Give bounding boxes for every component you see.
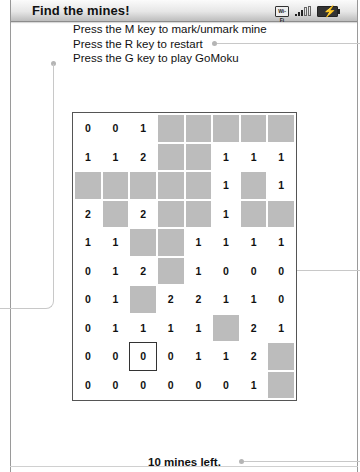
hidden-cell[interactable] — [157, 171, 185, 200]
hidden-cell[interactable] — [212, 314, 240, 343]
revealed-cell[interactable]: 1 — [240, 371, 268, 400]
revealed-cell[interactable]: 0 — [74, 314, 102, 343]
battery-charging-icon: ⚡ — [317, 6, 338, 17]
annotation-line-board — [0, 64, 54, 309]
hidden-cell[interactable] — [185, 200, 213, 229]
instruction-mark: Press the M key to mark/unmark mine — [73, 22, 267, 37]
revealed-cell[interactable]: 0 — [74, 114, 102, 143]
revealed-cell[interactable]: 0 — [157, 342, 185, 371]
selected-cell[interactable]: 0 — [129, 342, 157, 371]
instruction-gomoku: Press the G key to play GoMoku — [73, 51, 267, 66]
revealed-cell[interactable]: 1 — [129, 314, 157, 343]
hidden-cell[interactable] — [157, 257, 185, 286]
signal-bars-icon — [295, 6, 311, 16]
revealed-cell[interactable]: 0 — [102, 342, 130, 371]
hidden-cell[interactable] — [267, 114, 295, 143]
revealed-cell[interactable]: 0 — [102, 114, 130, 143]
revealed-cell[interactable]: 2 — [185, 285, 213, 314]
hidden-cell[interactable] — [74, 171, 102, 200]
revealed-cell[interactable]: 2 — [129, 143, 157, 172]
revealed-cell[interactable]: 1 — [240, 143, 268, 172]
revealed-cell[interactable]: 0 — [240, 257, 268, 286]
hidden-cell[interactable] — [240, 200, 268, 229]
hidden-cell[interactable] — [267, 342, 295, 371]
mines-left-counter: 10 mines left. — [148, 456, 221, 468]
revealed-cell[interactable]: 2 — [157, 285, 185, 314]
title-bar: Find the mines! Wi-Fi ⚡ — [11, 0, 357, 22]
hidden-cell[interactable] — [129, 285, 157, 314]
charging-bolt-icon: ⚡ — [323, 4, 337, 18]
revealed-cell[interactable]: 1 — [212, 200, 240, 229]
revealed-cell[interactable]: 1 — [240, 228, 268, 257]
hidden-cell[interactable] — [129, 171, 157, 200]
revealed-cell[interactable]: 0 — [212, 371, 240, 400]
revealed-cell[interactable]: 1 — [185, 257, 213, 286]
revealed-cell[interactable]: 0 — [74, 285, 102, 314]
revealed-cell[interactable]: 2 — [74, 200, 102, 229]
revealed-cell[interactable]: 1 — [185, 342, 213, 371]
minesweeper-board[interactable]: 0011121111122111111101210000122110011112… — [72, 112, 297, 401]
revealed-cell[interactable]: 0 — [74, 371, 102, 400]
revealed-cell[interactable]: 1 — [240, 285, 268, 314]
revealed-cell[interactable]: 1 — [267, 314, 295, 343]
annotation-line-restart — [217, 43, 360, 44]
revealed-cell[interactable]: 1 — [267, 143, 295, 172]
revealed-cell[interactable]: 1 — [212, 342, 240, 371]
revealed-cell[interactable]: 1 — [185, 314, 213, 343]
revealed-cell[interactable]: 1 — [212, 285, 240, 314]
hidden-cell[interactable] — [267, 200, 295, 229]
revealed-cell[interactable]: 0 — [74, 257, 102, 286]
revealed-cell[interactable]: 0 — [129, 371, 157, 400]
revealed-cell[interactable]: 1 — [212, 143, 240, 172]
wifi-icon: Wi-Fi — [275, 6, 289, 17]
hidden-cell[interactable] — [267, 371, 295, 400]
revealed-cell[interactable]: 1 — [102, 314, 130, 343]
revealed-cell[interactable]: 1 — [157, 314, 185, 343]
revealed-cell[interactable]: 0 — [102, 371, 130, 400]
revealed-cell[interactable]: 1 — [102, 285, 130, 314]
revealed-cell[interactable]: 1 — [212, 228, 240, 257]
hidden-cell[interactable] — [240, 171, 268, 200]
annotation-line-mines-left — [244, 461, 360, 462]
hidden-cell[interactable] — [157, 200, 185, 229]
revealed-cell[interactable]: 1 — [74, 143, 102, 172]
revealed-cell[interactable]: 1 — [74, 228, 102, 257]
revealed-cell[interactable]: 0 — [267, 285, 295, 314]
revealed-cell[interactable]: 1 — [267, 228, 295, 257]
revealed-cell[interactable]: 0 — [157, 371, 185, 400]
revealed-cell[interactable]: 2 — [240, 342, 268, 371]
hidden-cell[interactable] — [157, 114, 185, 143]
hidden-cell[interactable] — [185, 114, 213, 143]
hidden-cell[interactable] — [102, 200, 130, 229]
revealed-cell[interactable]: 0 — [185, 371, 213, 400]
window-title: Find the mines! — [32, 3, 130, 18]
hidden-cell[interactable] — [185, 143, 213, 172]
revealed-cell[interactable]: 0 — [74, 342, 102, 371]
hidden-cell[interactable] — [240, 114, 268, 143]
hidden-cell[interactable] — [102, 171, 130, 200]
revealed-cell[interactable]: 1 — [129, 114, 157, 143]
revealed-cell[interactable]: 0 — [267, 257, 295, 286]
status-icons: Wi-Fi ⚡ — [275, 5, 338, 17]
hidden-cell[interactable] — [185, 171, 213, 200]
revealed-cell[interactable]: 1 — [102, 257, 130, 286]
revealed-cell[interactable]: 1 — [212, 171, 240, 200]
revealed-cell[interactable]: 1 — [102, 143, 130, 172]
hidden-cell[interactable] — [157, 228, 185, 257]
window-border-right — [357, 0, 358, 472]
revealed-cell[interactable]: 1 — [267, 171, 295, 200]
revealed-cell[interactable]: 0 — [212, 257, 240, 286]
revealed-cell[interactable]: 1 — [102, 228, 130, 257]
hidden-cell[interactable] — [212, 114, 240, 143]
revealed-cell[interactable]: 2 — [129, 200, 157, 229]
revealed-cell[interactable]: 1 — [185, 228, 213, 257]
hidden-cell[interactable] — [157, 143, 185, 172]
revealed-cell[interactable]: 2 — [129, 257, 157, 286]
revealed-cell[interactable]: 2 — [240, 314, 268, 343]
hidden-cell[interactable] — [129, 228, 157, 257]
annotation-line-cell — [294, 270, 360, 271]
